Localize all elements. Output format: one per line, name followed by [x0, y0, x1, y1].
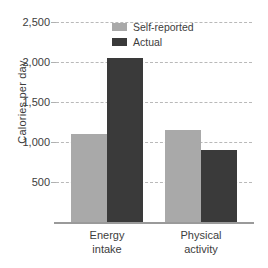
- legend-item: Actual: [112, 34, 194, 49]
- y-axis-tick-label: 500: [4, 176, 50, 188]
- y-axis-tick-label: 2,000: [4, 56, 50, 68]
- bar-actual: [201, 150, 237, 222]
- legend-label-self-reported: Self-reported: [133, 21, 194, 33]
- x-axis-category-label: Energyintake: [90, 228, 125, 256]
- y-axis-tick-label: 2,500: [4, 16, 50, 28]
- x-axis-line: [54, 222, 254, 224]
- y-axis-tick-label: 1,000: [4, 136, 50, 148]
- legend-item: Self-reported: [112, 19, 194, 34]
- legend-label-actual: Actual: [133, 36, 162, 48]
- legend-swatch-actual: [112, 38, 127, 46]
- bar-self-reported: [71, 134, 107, 222]
- bar-self-reported: [165, 130, 201, 222]
- bar-actual: [107, 58, 143, 222]
- legend: Self-reported Actual: [112, 19, 194, 49]
- legend-swatch-self-reported: [112, 23, 127, 31]
- bar-chart: Calories per day 5001,0001,5002,0002,500…: [0, 0, 268, 268]
- y-axis-tick-label: 1,500: [4, 96, 50, 108]
- x-axis-category-label: Physicalactivity: [181, 228, 222, 256]
